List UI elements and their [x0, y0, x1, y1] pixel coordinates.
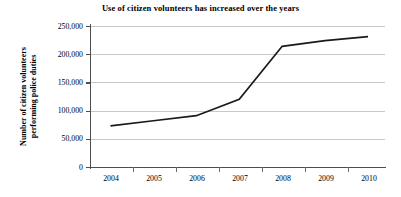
data-series-line — [0, 0, 401, 197]
series-polyline — [111, 37, 369, 126]
line-chart-figure: Use of citizen volunteers has increased … — [0, 0, 401, 197]
